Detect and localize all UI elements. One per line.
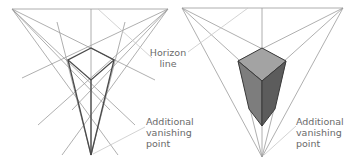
- horizon-line-label: Horizon line: [146, 47, 190, 69]
- right-solid-box: [238, 48, 286, 126]
- additional-vanishing-point-label-right: Additional vanishing point: [296, 116, 344, 149]
- left-wireframe-diagram: [12, 9, 168, 155]
- additional-vanishing-point-label-left: Additional vanishing point: [146, 116, 194, 149]
